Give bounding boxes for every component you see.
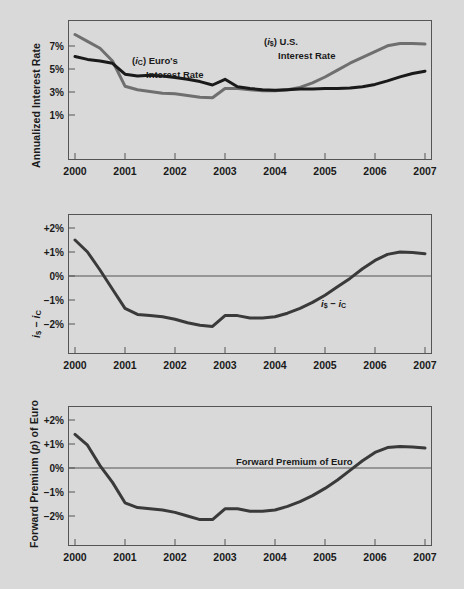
panel-top-xtick-3: 2003 xyxy=(205,165,245,177)
panel-mid-ytick-1: +1% xyxy=(24,247,64,258)
panel-top-ytick-1: 5% xyxy=(34,64,64,75)
panel-mid-ytick-3: −1% xyxy=(24,295,64,306)
annotation-differential: i$ − iC xyxy=(321,298,346,312)
panel-mid-xtick-7: 2007 xyxy=(405,359,445,371)
annotation-us-line2: Interest Rate xyxy=(264,50,336,62)
panel-interest-rates: Annualized Interest Rate 7% 5% 3% 1% xyxy=(0,0,464,190)
x-tick-marks xyxy=(75,153,425,160)
plot-frame xyxy=(69,407,432,546)
plot-frame xyxy=(69,215,432,354)
panel-bot-xtick-1: 2001 xyxy=(105,551,145,563)
panel-bot-xtick-5: 2005 xyxy=(305,551,345,563)
panel-mid-xtick-2: 2002 xyxy=(155,359,195,371)
panel-bot-xtick-0: 2000 xyxy=(55,551,95,563)
panel-top-ytick-0: 7% xyxy=(34,41,64,52)
panel-mid-ytick-4: −2% xyxy=(24,319,64,330)
panel-top-xtick-2: 2002 xyxy=(155,165,195,177)
panel-bot-svg xyxy=(68,406,432,546)
panel-bot-xtick-6: 2006 xyxy=(355,551,395,563)
panel-top-xtick-4: 2004 xyxy=(255,165,295,177)
panel-mid-svg xyxy=(68,214,432,354)
panel-bot-ytick-1: +1% xyxy=(24,439,64,450)
annotation-euro-line1: (iC) Euro's xyxy=(132,55,178,66)
x-tick-marks xyxy=(75,347,425,354)
panel-bot-ytick-4: −2% xyxy=(24,511,64,522)
panel-mid-ytick-0: +2% xyxy=(24,223,64,234)
panel-top-ytick-2: 3% xyxy=(34,87,64,98)
panel-top-plot xyxy=(68,20,432,160)
x-tick-marks xyxy=(75,539,425,546)
panel-bot-ytick-3: −1% xyxy=(24,487,64,498)
panel-bot-ytick-0: +2% xyxy=(24,415,64,426)
panel-top-xtick-5: 2005 xyxy=(305,165,345,177)
figure-container: Annualized Interest Rate 7% 5% 3% 1% xyxy=(0,0,464,589)
panel-bot-xtick-2: 2002 xyxy=(155,551,195,563)
panel-mid-xtick-3: 2003 xyxy=(205,359,245,371)
panel-bot-xtick-3: 2003 xyxy=(205,551,245,563)
panel-bot-plot xyxy=(68,406,432,546)
panel-top-xtick-0: 2000 xyxy=(55,165,95,177)
annotation-euro-rate: (iC) Euro's Interest Rate xyxy=(132,55,204,80)
annotation-forward-premium: Forward Premium of Euro xyxy=(236,456,353,468)
annotation-us-line1: (i$) U.S. xyxy=(264,36,298,47)
panel-mid-xtick-6: 2006 xyxy=(355,359,395,371)
series-forward-premium xyxy=(75,434,425,519)
panel-interest-differential: i$ − iC +2% +1% 0% −1% −2% xyxy=(0,190,464,380)
panel-top-xtick-6: 2006 xyxy=(355,165,395,177)
panel-mid-xtick-1: 2001 xyxy=(105,359,145,371)
panel-top-svg xyxy=(68,20,432,160)
panel-mid-ytick-2: 0% xyxy=(24,271,64,282)
panel-mid-xtick-0: 2000 xyxy=(55,359,95,371)
panel-mid-xtick-5: 2005 xyxy=(305,359,345,371)
panel-mid-xtick-4: 2004 xyxy=(255,359,295,371)
panel-top-ytick-3: 1% xyxy=(34,110,64,121)
annotation-euro-line2: Interest Rate xyxy=(132,69,204,81)
panel-top-xtick-1: 2001 xyxy=(105,165,145,177)
panel-bot-xtick-4: 2004 xyxy=(255,551,295,563)
panel-bot-xtick-7: 2007 xyxy=(405,551,445,563)
series-euro-rate xyxy=(75,57,425,91)
panel-top-xtick-7: 2007 xyxy=(405,165,445,177)
panel-forward-premium: Forward Premium (p) of Euro +2% +1% 0% −… xyxy=(0,380,464,589)
series-differential xyxy=(75,240,425,326)
annotation-us-rate: (i$) U.S. Interest Rate xyxy=(264,36,336,61)
panel-bot-ytick-2: 0% xyxy=(24,463,64,474)
panel-mid-plot xyxy=(68,214,432,354)
